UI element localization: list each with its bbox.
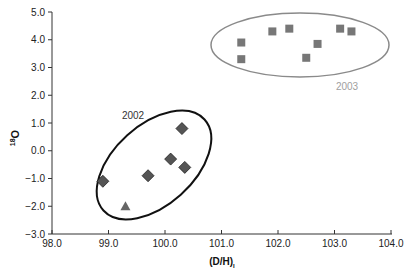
y-tick-label: 0.0: [31, 145, 45, 156]
y-tick-label: 5.0: [31, 7, 45, 18]
triangle-marker: [120, 201, 130, 210]
y-axis-title-superscript: 18: [9, 138, 16, 146]
square-marker: [347, 27, 355, 35]
square-marker: [302, 54, 310, 62]
scatter-chart: 5.04.03.02.01.00.0−1.0−2.0−3.0 98.099.01…: [0, 0, 410, 280]
x-tick-label: 101.0: [209, 238, 234, 249]
diamond-marker: [142, 170, 154, 182]
diamond-marker: [179, 161, 191, 173]
y-tick-label: 2.0: [31, 90, 45, 101]
square-marker: [237, 55, 245, 63]
y-tick-label: 1.0: [31, 118, 45, 129]
square-marker: [336, 25, 344, 33]
y-axis-ticks: 5.04.03.02.01.00.0−1.0−2.0−3.0: [25, 7, 52, 240]
svg-text:18O: 18O: [9, 129, 21, 146]
x-axis-title-text: (D/H): [209, 256, 233, 267]
y-tick-label: −2.0: [25, 201, 45, 212]
x-axis-title: (D/H)I: [209, 256, 235, 269]
square-marker: [237, 39, 245, 47]
square-marker: [268, 27, 276, 35]
y-axis-title-text: O: [9, 129, 21, 138]
square-marker: [285, 25, 293, 33]
x-tick-label: 100.0: [152, 238, 177, 249]
x-tick-label: 104.0: [378, 238, 403, 249]
x-tick-label: 102.0: [265, 238, 290, 249]
x-tick-label: 99.0: [99, 238, 119, 249]
x-tick-label: 98.0: [42, 238, 62, 249]
group-2002-label: 2002: [122, 110, 145, 121]
x-axis-title-subscript: I: [233, 263, 235, 269]
group-2003-label: 2003: [336, 81, 359, 92]
y-tick-label: 3.0: [31, 62, 45, 73]
diamond-marker: [176, 123, 188, 135]
y-tick-label: −1.0: [25, 173, 45, 184]
square-marker: [314, 40, 322, 48]
diamond-marker: [165, 153, 177, 165]
y-tick-label: 4.0: [31, 34, 45, 45]
x-tick-label: 103.0: [322, 238, 347, 249]
y-axis-title: 18O: [9, 129, 21, 146]
x-axis-ticks: 98.099.0100.0101.0102.0103.0104.0: [42, 230, 404, 249]
group-2002-ellipse: [77, 90, 232, 240]
